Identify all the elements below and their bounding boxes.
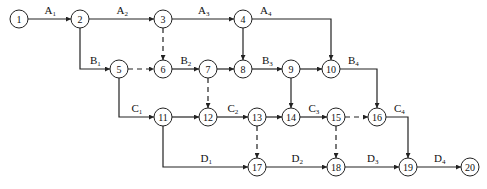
node-number: 15 [331, 112, 341, 123]
node-4: 4 [234, 10, 252, 28]
node-number: 6 [161, 64, 166, 75]
node-number: 18 [331, 162, 341, 173]
node-number: 17 [252, 162, 262, 173]
node-20: 20 [461, 158, 479, 176]
activity-label-C1: C1 [132, 102, 143, 116]
activity-label-C2: C2 [228, 102, 239, 116]
node-number: 9 [289, 64, 294, 75]
node-2: 2 [71, 10, 89, 28]
network-diagram: A1A2A3A4B1B2B3B4C1C2C3C4D1D2D3D4 1234567… [0, 0, 487, 189]
activity-label-B3: B3 [262, 54, 273, 68]
node-7: 7 [199, 60, 217, 78]
edge-16-19 [386, 117, 408, 158]
activity-label-C4: C4 [394, 102, 405, 116]
node-10: 10 [322, 60, 340, 78]
labels-layer: A1A2A3A4B1B2B3B4C1C2C3C4D1D2D3D4 [45, 4, 446, 166]
node-9: 9 [282, 60, 300, 78]
node-number: 3 [161, 14, 166, 25]
activity-label-A4: A4 [260, 4, 272, 18]
activity-label-D4: D4 [434, 152, 446, 166]
node-number: 5 [117, 64, 122, 75]
activity-label-D1: D1 [201, 152, 213, 166]
activity-label-B2: B2 [181, 54, 192, 68]
node-8: 8 [234, 60, 252, 78]
edges-layer [28, 19, 461, 167]
activity-label-B1: B1 [90, 54, 101, 68]
activity-label-A1: A1 [45, 4, 57, 18]
node-number: 20 [465, 162, 475, 173]
node-number: 10 [326, 64, 336, 75]
node-3: 3 [154, 10, 172, 28]
activity-label-A2: A2 [117, 4, 129, 18]
edge-10-16 [340, 69, 377, 108]
activity-label-D3: D3 [367, 152, 379, 166]
node-12: 12 [199, 108, 217, 126]
node-16: 16 [368, 108, 386, 126]
node-1: 1 [10, 10, 28, 28]
activity-label-D2: D2 [292, 152, 304, 166]
node-number: 4 [241, 14, 246, 25]
node-number: 7 [206, 64, 211, 75]
node-15: 15 [327, 108, 345, 126]
node-number: 8 [241, 64, 246, 75]
node-number: 2 [78, 14, 83, 25]
node-number: 11 [158, 112, 168, 123]
node-11: 11 [154, 108, 172, 126]
node-19: 19 [399, 158, 417, 176]
node-5: 5 [110, 60, 128, 78]
node-6: 6 [154, 60, 172, 78]
node-14: 14 [282, 108, 300, 126]
activity-label-C3: C3 [309, 102, 320, 116]
activity-label-B4: B4 [348, 54, 359, 68]
node-number: 13 [252, 112, 262, 123]
node-number: 12 [203, 112, 213, 123]
node-number: 14 [286, 112, 296, 123]
node-13: 13 [248, 108, 266, 126]
node-number: 16 [372, 112, 382, 123]
node-number: 19 [403, 162, 413, 173]
node-number: 1 [17, 14, 22, 25]
node-17: 17 [248, 158, 266, 176]
activity-label-A3: A3 [198, 4, 210, 18]
node-18: 18 [327, 158, 345, 176]
